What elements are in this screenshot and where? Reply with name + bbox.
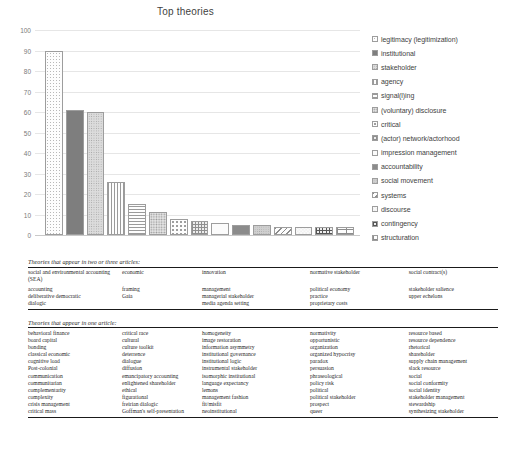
- table-cell: diffusion: [122, 365, 202, 372]
- table-cell: slack resource: [409, 365, 498, 372]
- table-cell: dialogic: [28, 300, 122, 309]
- table-cell: social contract(s): [409, 267, 498, 283]
- legend-swatch-icon: [372, 64, 378, 70]
- y-axis-tick-label: 40: [24, 150, 31, 157]
- y-axis-tick-label: 80: [24, 68, 31, 75]
- legend-swatch-icon: [372, 36, 378, 42]
- table-cell: media agenda setting: [202, 300, 310, 309]
- table-cell: supply chain management: [409, 358, 498, 365]
- legend-item[interactable]: accountability: [372, 160, 511, 174]
- theory-tables: Theories that appear in two or three art…: [28, 258, 498, 427]
- legend-swatch-icon: [372, 121, 378, 127]
- bar-5: [128, 204, 146, 235]
- table-cell: social conformity: [409, 380, 498, 387]
- bar-10: [232, 225, 250, 235]
- table-cell: queer: [310, 408, 409, 417]
- bar-2: [66, 110, 84, 235]
- table-cell: critical mass: [28, 408, 122, 417]
- legend-swatch-icon: [372, 93, 378, 99]
- table-cell: proprietary costs: [310, 300, 409, 309]
- plot-area: 1009080706050403020100: [35, 30, 360, 235]
- table-cell: resource dependence: [409, 337, 498, 344]
- table-row: deliberative democraticGaiamanagerial st…: [28, 293, 498, 300]
- legend-item-label: (actor) network/actorhood: [381, 135, 460, 142]
- table-cell: social and environmental accounting (SEA…: [28, 267, 122, 283]
- bar-4: [107, 182, 125, 235]
- table-cell: ethical: [122, 387, 202, 394]
- legend-item[interactable]: agency: [372, 75, 511, 89]
- legend-swatch-icon: [372, 206, 378, 212]
- legend-item[interactable]: discourse: [372, 202, 511, 216]
- table-cell: political: [310, 387, 409, 394]
- table-row: social and environmental accounting (SEA…: [28, 267, 498, 283]
- table-cell: social identity: [409, 387, 498, 394]
- table-cell: communitarian: [28, 380, 122, 387]
- legend-swatch-icon: [372, 135, 378, 141]
- table-cell: framing: [122, 286, 202, 293]
- table-cell: dialogue: [122, 358, 202, 365]
- table-cell: phraseological: [310, 373, 409, 380]
- table-two-three-caption: Theories that appear in two or three art…: [28, 258, 498, 265]
- table-cell: political economy: [310, 286, 409, 293]
- table-row: complementarityethicallemonspoliticalsoc…: [28, 387, 498, 394]
- legend-item-label: discourse: [381, 206, 411, 213]
- y-axis-tick-label: 100: [20, 27, 31, 34]
- legend-item[interactable]: (actor) network/actorhood: [372, 131, 511, 145]
- table-cell: crisis management: [28, 401, 122, 408]
- legend-swatch-icon: [372, 79, 378, 85]
- table-cell: management: [202, 286, 310, 293]
- table-cell: synthesizing stakeholder: [409, 408, 498, 417]
- table-row: dialogicmedia agenda settingproprietary …: [28, 300, 498, 309]
- legend-item[interactable]: critical: [372, 117, 511, 131]
- legend-item[interactable]: institutional: [372, 46, 511, 60]
- table-cell: deterrence: [122, 351, 202, 358]
- table-cell: board capital: [28, 337, 122, 344]
- legend-item[interactable]: structuration: [372, 231, 511, 245]
- bar-12: [274, 227, 292, 235]
- table-cell: resource based: [409, 328, 498, 337]
- table-cell: institutional logic: [202, 358, 310, 365]
- legend-item[interactable]: legitimacy (legitimization): [372, 32, 511, 46]
- table-row: critical massGoffman's self-presentation…: [28, 408, 498, 417]
- bar-15: [336, 227, 354, 235]
- table-cell: practice: [310, 293, 409, 300]
- legend-item[interactable]: social movement: [372, 174, 511, 188]
- table-cell: social: [409, 373, 498, 380]
- table-cell: innovation: [202, 267, 310, 283]
- table-cell: figurational: [122, 394, 202, 401]
- table-cell: cognitive load: [28, 358, 122, 365]
- table-cell: enlightened shareholder: [122, 380, 202, 387]
- legend-swatch-icon: [372, 192, 378, 198]
- bar-3: [87, 112, 105, 235]
- table-two-or-three-articles: social and environmental accounting (SEA…: [28, 267, 498, 310]
- y-axis-tick-label: 70: [24, 88, 31, 95]
- legend-item-label: accountability: [381, 163, 423, 170]
- table-cell: deliberative democratic: [28, 293, 122, 300]
- table-cell: culture toolkit: [122, 344, 202, 351]
- table-cell: Goffman's self-presentation: [122, 408, 202, 417]
- legend-item-label: critical: [381, 121, 400, 128]
- legend-item[interactable]: signal(l)ing: [372, 89, 511, 103]
- y-axis-tick-label: 90: [24, 47, 31, 54]
- legend-item-label: structuration: [381, 234, 419, 241]
- legend-item-label: contingency: [381, 220, 418, 227]
- legend-item-label: systems: [381, 192, 406, 199]
- table-cell: emancipatory accounting: [122, 373, 202, 380]
- table-one-caption: Theories that appear in one article:: [28, 319, 498, 326]
- legend-item[interactable]: impression management: [372, 146, 511, 160]
- table-cell: political stakeholder: [310, 394, 409, 401]
- legend-item[interactable]: stakeholder: [372, 60, 511, 74]
- legend-item[interactable]: contingency: [372, 216, 511, 230]
- table-cell: accounting: [28, 286, 122, 293]
- table-cell: Post-colonial: [28, 365, 122, 372]
- table-cell: institutional governance: [202, 351, 310, 358]
- table-cell: paradox: [310, 358, 409, 365]
- table-cell: Gaia: [122, 293, 202, 300]
- table-cell: prospect: [310, 401, 409, 408]
- legend-item[interactable]: (voluntary) disclosure: [372, 103, 511, 117]
- table-cell: [122, 300, 202, 309]
- table-cell: economic: [122, 267, 202, 283]
- table-cell: fit/misfit: [202, 401, 310, 408]
- legend-item[interactable]: systems: [372, 188, 511, 202]
- table-cell: instrumental stakeholder: [202, 365, 310, 372]
